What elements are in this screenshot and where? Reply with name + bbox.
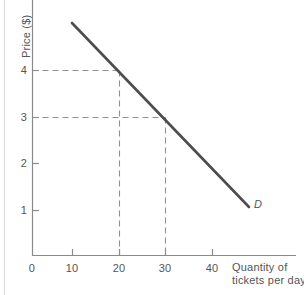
y-tick-label-2: 2	[13, 157, 27, 169]
demand-curve-line	[72, 23, 249, 207]
chart-canvas	[0, 0, 304, 295]
x-tick-label-40: 40	[201, 262, 223, 274]
y-axis-title: Price ($)	[20, 15, 32, 58]
x-tick-label-0: 0	[21, 262, 43, 274]
x-axis-title-line-1: Quantity of	[232, 261, 304, 274]
x-axis-title: Quantity of tickets per day	[232, 261, 304, 287]
demand-curve-label: D	[254, 198, 262, 210]
x-axis-title-line-2: tickets per day	[232, 274, 304, 287]
x-tick-label-20: 20	[108, 262, 130, 274]
y-tick-label-4: 4	[13, 64, 27, 76]
demand-curve-figure: Price ($) 4 3 2 1 0 10 20 30 40 Quantity…	[0, 0, 304, 295]
y-tick-label-1: 1	[13, 204, 27, 216]
x-tick-label-10: 10	[61, 262, 83, 274]
y-tick-label-3: 3	[13, 111, 27, 123]
x-tick-label-30: 30	[154, 262, 176, 274]
